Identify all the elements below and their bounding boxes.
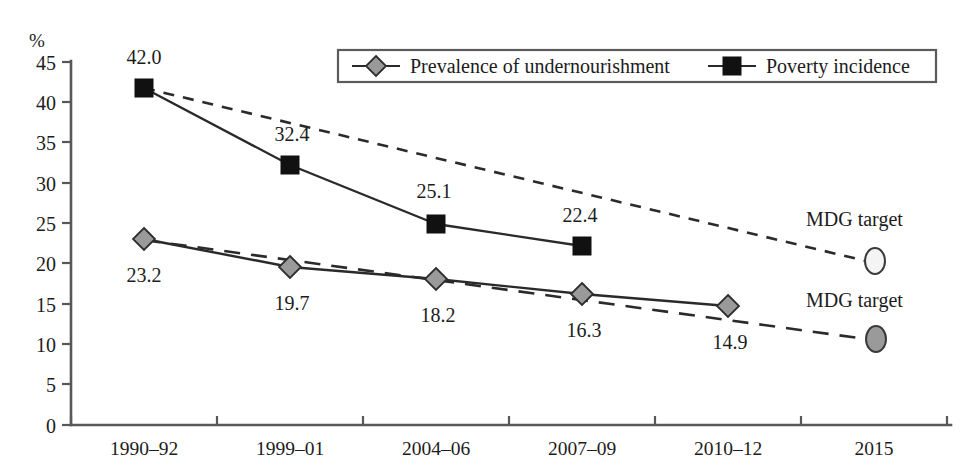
poverty-marker-1990-92: [135, 79, 153, 97]
mdg-target-label-poverty: MDG target: [806, 208, 903, 231]
y-tick-label-40: 40: [36, 92, 56, 114]
x-axis-category-labels: 1990–92 1999–01 2004–06 2007–09 2010–12 …: [110, 438, 894, 459]
legend-square-icon: [723, 57, 741, 75]
chart-container: % 45 40 35 30 25 20 15 10 5 0: [0, 0, 976, 473]
mdg-target-annotations: MDG target MDG target: [806, 208, 903, 312]
series-poverty-incidence: [135, 79, 591, 255]
x-label-2007-09: 2007–09: [548, 438, 616, 459]
undernourishment-marker-2007-09: [571, 283, 593, 305]
mdg-target-lines: [144, 88, 866, 339]
data-label-undernourishment-2004-06: 18.2: [421, 304, 456, 326]
y-axis-ticks: [62, 62, 71, 425]
data-label-undernourishment-2010-12: 14.9: [713, 331, 748, 353]
y-tick-label-0: 0: [46, 415, 56, 437]
y-tick-label-15: 15: [36, 294, 56, 316]
data-labels: 42.0 32.4 25.1 22.4 23.2 19.7 18.2 16.3 …: [127, 46, 748, 353]
line-chart: % 45 40 35 30 25 20 15 10 5 0: [0, 0, 976, 473]
x-label-2015: 2015: [855, 438, 894, 459]
data-label-poverty-1990-92: 42.0: [127, 46, 162, 68]
y-tick-label-35: 35: [36, 132, 56, 154]
y-tick-label-20: 20: [36, 253, 56, 275]
x-label-1990-92: 1990–92: [110, 438, 178, 459]
legend-label-undernourishment: Prevalence of undernourishment: [410, 55, 670, 77]
y-tick-label-30: 30: [36, 173, 56, 195]
undernourishment-marker-2010-12: [717, 295, 739, 317]
legend-entry-poverty[interactable]: Poverty incidence: [708, 55, 910, 78]
poverty-marker-2004-06: [427, 215, 445, 233]
x-label-2004-06: 2004–06: [402, 438, 471, 459]
data-label-poverty-1999-01: 32.4: [275, 123, 310, 145]
data-label-undernourishment-1999-01: 19.7: [275, 292, 310, 314]
mdg-target-marker-poverty: [865, 248, 885, 274]
data-label-poverty-2004-06: 25.1: [417, 180, 452, 202]
data-label-poverty-2007-09: 22.4: [563, 204, 598, 226]
undernourishment-marker-1990-92: [133, 228, 155, 250]
mdg-target-marker-undernourishment: [866, 326, 886, 352]
data-label-undernourishment-2007-09: 16.3: [567, 319, 602, 341]
poverty-incidence-line: [144, 88, 582, 246]
x-label-1999-01: 1999–01: [256, 438, 324, 459]
y-tick-label-25: 25: [36, 213, 56, 235]
mdg-target-line-undernourishment: [144, 240, 866, 339]
y-tick-label-45: 45: [36, 52, 56, 74]
y-tick-label-10: 10: [36, 334, 56, 356]
mdg-target-label-undernourishment: MDG target: [806, 289, 903, 312]
x-label-2010-12: 2010–12: [694, 438, 762, 459]
chart-legend: Prevalence of undernourishment Poverty i…: [338, 50, 936, 82]
poverty-marker-2007-09: [573, 237, 591, 255]
y-axis-unit-label: %: [29, 30, 45, 51]
data-label-undernourishment-1990-92: 23.2: [127, 264, 162, 286]
legend-label-poverty: Poverty incidence: [766, 55, 910, 78]
x-axis-ticks: [71, 416, 947, 425]
y-tick-label-5: 5: [46, 374, 56, 396]
poverty-marker-1999-01: [281, 156, 299, 174]
undernourishment-marker-2004-06: [425, 268, 447, 290]
y-axis-tick-labels: % 45 40 35 30 25 20 15 10 5 0: [29, 30, 56, 437]
